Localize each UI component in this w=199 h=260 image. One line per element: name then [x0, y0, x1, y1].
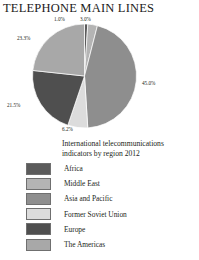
legend-label: The Americas [64, 240, 105, 249]
legend-label: Asia and Pacific [64, 194, 112, 203]
pie-chart-svg [0, 14, 199, 138]
pie-label-former-soviet-union: 6.2% [62, 126, 73, 132]
pie-label-americas: 23.3% [17, 35, 30, 41]
legend-item: Asia and Pacific [26, 191, 199, 206]
legend-swatch [26, 223, 51, 235]
chart-subtitle: International telecommunications indicat… [62, 139, 194, 159]
legend-item: The Americas [26, 237, 199, 252]
legend-swatch [26, 239, 51, 251]
legend-label: Former Soviet Union [64, 210, 127, 219]
legend-label: Middle East [64, 179, 100, 188]
legend-swatch [26, 208, 51, 220]
legend: AfricaMiddle EastAsia and PacificFormer … [26, 161, 199, 252]
legend-swatch [26, 178, 51, 190]
pie-label-africa: 1.0% [54, 16, 65, 22]
legend-swatch [26, 193, 51, 205]
pie-label-asia-pacific: 45.0% [142, 80, 155, 86]
pie-label-europe: 21.5% [7, 102, 20, 108]
pie-chart: 1.0% 3.0% 45.0% 6.2% 21.5% 23.3% [0, 14, 199, 138]
legend-item: Former Soviet Union [26, 207, 199, 222]
pie-slice-group [33, 24, 137, 128]
legend-item: Europe [26, 222, 199, 237]
legend-item: Africa [26, 161, 199, 176]
pie-slice [33, 24, 85, 76]
legend-label: Europe [64, 225, 85, 234]
legend-label: Africa [64, 164, 83, 173]
legend-item: Middle East [26, 176, 199, 191]
legend-swatch [26, 163, 51, 175]
pie-label-middle-east: 3.0% [80, 16, 91, 22]
